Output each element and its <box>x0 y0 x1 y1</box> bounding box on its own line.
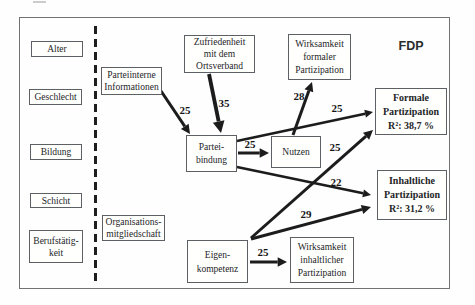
path-coefficient-label: 28 <box>294 90 306 102</box>
box-formale-partizipation-line: Partizipation <box>383 105 439 119</box>
box-nutzen-label: Nutzen <box>282 146 309 158</box>
path-coefficient-label: 25 <box>258 246 270 258</box>
box-wirksamkeit-formaler-line: Wirksamkeit <box>295 38 344 51</box>
box-parteibindung-line: bindung <box>196 154 227 167</box>
box-organisationsmitgliedschaft-line: Organisations- <box>106 216 162 228</box>
box-bildung-label: Bildung <box>41 146 72 158</box>
box-wirksamkeit-formaler-line: Partizipation <box>295 64 344 77</box>
box-parteibindung: Partei- bindung <box>186 135 237 172</box>
box-schicht: Schicht <box>30 193 82 208</box>
box-parteiinterne-informationen-line: Parteiinterne <box>107 69 156 81</box>
box-geschlecht: Geschlecht <box>29 89 82 105</box>
box-berufstaetigkeit: Berufstätig- keit <box>29 230 83 263</box>
path-coefficient-label: 25 <box>332 102 344 114</box>
box-parteibindung-line: Partei- <box>199 141 224 154</box>
path-coefficient-label: 22 <box>331 176 343 188</box>
box-inhaltliche-partizipation-r2: R²: 31,2 % <box>389 202 435 216</box>
box-inhaltliche-partizipation-line: Inhaltliche <box>389 174 435 188</box>
path-coefficient-label: 25 <box>330 141 342 153</box>
box-zufriedenheit-ortsverband-line: mit dem <box>204 48 235 60</box>
box-formale-partizipation: Formale Partizipation R²: 38,7 % <box>375 88 447 135</box>
arrow-parteiinterne-informationen-to-parteibindung: 25 <box>161 91 191 134</box>
arrow-eigenkompetenz-to-wirksamkeit-inhaltlicher-partizipation: 25 <box>250 246 287 267</box>
box-parteiinterne-informationen-line: Informationen <box>104 81 158 93</box>
box-berufstaetigkeit-line: Berufstätig- <box>33 235 78 247</box>
box-wirksamkeit-inhaltlicher-line: Partizipation <box>298 267 347 280</box>
box-eigenkompetenz: Eigen- kompetenz <box>187 240 248 283</box>
party-label-fdp: FDP <box>394 39 428 53</box>
box-schicht-label: Schicht <box>42 195 71 207</box>
box-nutzen: Nutzen <box>271 136 321 168</box>
box-berufstaetigkeit-line: keit <box>49 247 63 259</box>
box-wirksamkeit-formaler-partizipation: Wirksamkeit formaler Partizipation <box>288 34 351 80</box>
path-coefficient-label: 29 <box>301 208 313 220</box>
box-inhaltliche-partizipation-line: Partizipation <box>384 188 440 202</box>
box-parteiinterne-informationen: Parteiinterne Informationen <box>101 67 162 95</box>
arrowhead-icon <box>213 120 225 133</box>
box-zufriedenheit-ortsverband-line: Ortsverband <box>196 60 243 72</box>
path-model-diagram: 253525282525222925 Alter Geschlecht Bild… <box>0 0 475 305</box>
box-bildung: Bildung <box>30 144 82 160</box>
arrowhead-icon <box>362 189 371 197</box>
box-zufriedenheit-ortsverband-line: Zufriedenheit <box>194 36 246 48</box>
box-organisationsmitgliedschaft-line: mitgliedschaft <box>106 228 160 240</box>
box-wirksamkeit-formaler-line: formaler <box>303 51 336 64</box>
arrowhead-icon <box>361 205 371 214</box>
box-alter-label: Alter <box>47 43 67 55</box>
arrowhead-icon <box>260 148 269 157</box>
path-coefficient-label: 35 <box>219 97 231 109</box>
path-coefficient-label: 25 <box>180 104 192 116</box>
box-zufriedenheit-ortsverband: Zufriedenheit mit dem Ortsverband <box>184 35 255 73</box>
box-formale-partizipation-line: Formale <box>393 91 429 105</box>
box-wirksamkeit-inhaltlicher-line: Wirksamkeit <box>298 241 347 254</box>
box-wirksamkeit-inhaltlicher-partizipation: Wirksamkeit inhaltlicher Partizipation <box>290 237 354 283</box>
box-formale-partizipation-r2: R²: 38,7 % <box>388 119 434 133</box>
box-organisationsmitgliedschaft: Organisations- mitgliedschaft <box>102 215 165 241</box>
box-eigenkompetenz-line: Eigen- <box>205 248 230 262</box>
box-inhaltliche-partizipation: Inhaltliche Partizipation R²: 31,2 % <box>377 170 447 220</box>
arrowhead-icon <box>364 110 373 118</box>
box-geschlecht-label: Geschlecht <box>34 91 76 103</box>
arrow-zufriedenheit-ortsverband-to-parteibindung: 35 <box>209 74 230 133</box>
arrowhead-icon <box>278 257 287 266</box>
box-eigenkompetenz-line: kompetenz <box>197 262 239 276</box>
box-wirksamkeit-inhaltlicher-line: inhaltlicher <box>300 254 343 267</box>
box-alter: Alter <box>31 41 83 57</box>
